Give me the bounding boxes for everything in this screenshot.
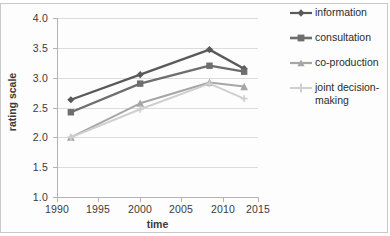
- data-point-marker: [137, 106, 144, 113]
- legend-item-consultation[interactable]: consultation: [290, 31, 388, 45]
- legend-item-information[interactable]: information: [290, 6, 388, 20]
- data-point-marker: [241, 69, 247, 75]
- legend-label-information: information: [315, 6, 388, 19]
- legend-marker-triangle-icon: [290, 57, 312, 69]
- data-point-marker: [67, 96, 74, 103]
- legend-label-joint-decision-making: joint decision-making: [315, 81, 388, 106]
- data-point-marker: [137, 80, 143, 86]
- data-point-marker: [137, 71, 144, 78]
- legend-item-joint-decision-making[interactable]: joint decision-making: [290, 81, 388, 106]
- legend-marker-diamond-icon: [290, 7, 312, 19]
- series-line: [71, 50, 244, 100]
- data-point-marker: [206, 63, 212, 69]
- legend-marker-square-icon: [290, 32, 312, 44]
- series-joint-decision-making: [67, 80, 247, 141]
- chart-screenshot: 4.0 3.5 3.0 2.5 2.0 1.5 1.0 1990 1995 20…: [0, 0, 390, 236]
- legend-marker-cross-icon: [290, 82, 312, 94]
- series-line: [71, 84, 244, 138]
- legend-label-consultation: consultation: [315, 31, 388, 44]
- data-point-marker: [206, 80, 213, 87]
- chart-legend: information consultation co-production j…: [290, 6, 388, 117]
- data-point-marker: [241, 95, 248, 102]
- series-information: [67, 46, 247, 103]
- legend-label-co-production: co-production: [315, 56, 388, 69]
- series-line: [71, 66, 244, 113]
- legend-item-co-production[interactable]: co-production: [290, 56, 388, 70]
- data-point-marker: [68, 109, 74, 115]
